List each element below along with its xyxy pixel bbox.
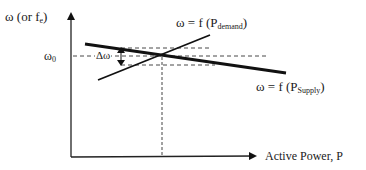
x-axis-label-text: Active Power, P [265,149,343,163]
y-axis-label-close: ) [43,9,47,24]
demand-curve-label-close: ) [243,15,247,30]
omega0-symbol: ω [44,49,52,63]
supply-curve-label-subscript: Supply [298,86,321,95]
demand-curve-label-subscript: demand [218,22,243,31]
omega0-label: ω0 [44,50,56,64]
omega0-subscript: 0 [52,55,56,64]
demand-curve [98,35,210,80]
delta-omega-text: Δω [96,49,110,61]
supply-curve-label-text: ω = f (P [256,79,298,94]
demand-curve-label: ω = f (Pdemand) [176,16,247,31]
y-axis-label: ω (or fe) [5,10,47,25]
supply-curve-label: ω = f (PSupply) [256,80,325,95]
delta-omega-label: Δω [95,50,111,61]
demand-curve-label-text: ω = f (P [176,15,218,30]
x-axis-label: Active Power, P [265,150,343,162]
x-axis [71,156,255,157]
supply-curve-label-close: ) [320,79,324,94]
y-axis-label-text: ω (or f [5,9,40,24]
